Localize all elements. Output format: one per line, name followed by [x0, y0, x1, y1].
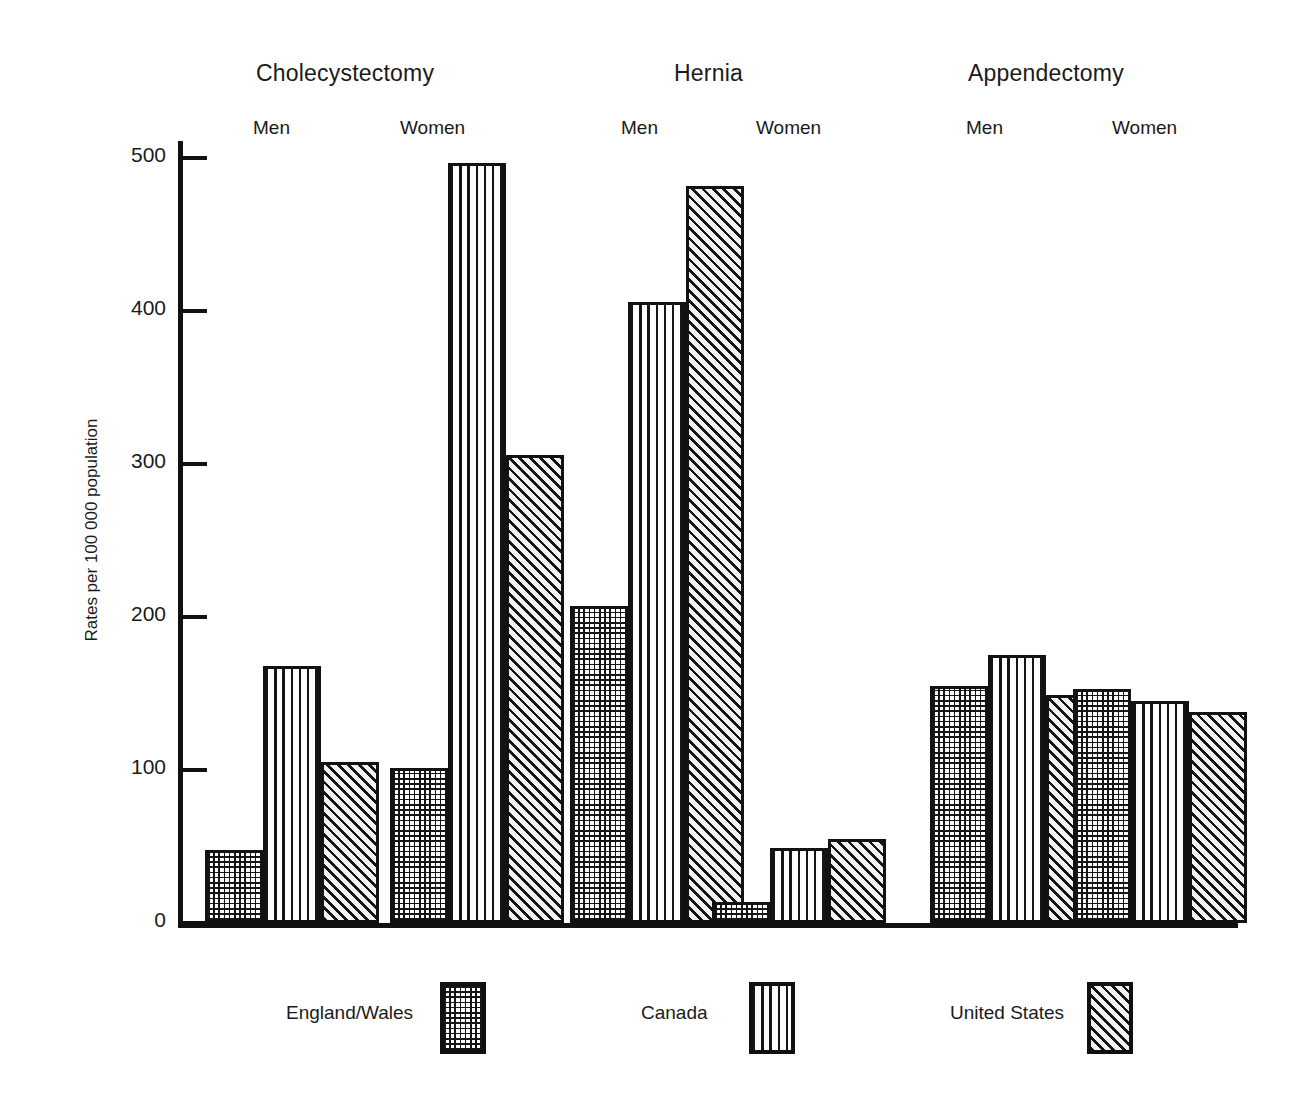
y-tick-100 [183, 768, 207, 772]
sex-label-cholecystectomy-men: Men [253, 117, 290, 139]
sex-label-hernia-men: Men [621, 117, 658, 139]
bar-hernia-women-united-states [828, 839, 886, 923]
y-tick-300 [183, 462, 207, 466]
sex-label-appendectomy-men: Men [966, 117, 1003, 139]
bar-cholecystectomy-women-canada [448, 163, 506, 923]
y-tick-label-500: 500 [86, 143, 166, 167]
sex-label-appendectomy-women: Women [1112, 117, 1177, 139]
legend-label-england-wales: England/Wales [286, 1002, 413, 1024]
legend-label-canada: Canada [641, 1002, 708, 1024]
bar-hernia-men-england-wales [570, 606, 628, 923]
bar-cholecystectomy-men-canada [263, 666, 321, 923]
legend-label-united-states: United States [950, 1002, 1064, 1024]
bar-cholecystectomy-men-united-states [321, 762, 379, 923]
group-title-appendectomy: Appendectomy [968, 60, 1124, 87]
bar-cholecystectomy-women-united-states [506, 455, 564, 923]
y-tick-200 [183, 615, 207, 619]
bar-cholecystectomy-men-england-wales [205, 850, 263, 923]
bar-hernia-women-england-wales [712, 902, 770, 923]
bar-appendectomy-men-canada [988, 655, 1046, 923]
bar-appendectomy-men-england-wales [930, 686, 988, 923]
y-tick-400 [183, 309, 207, 313]
group-title-cholecystectomy: Cholecystectomy [256, 60, 434, 87]
legend-swatch-england-wales [440, 982, 486, 1054]
y-tick-0 [183, 921, 207, 925]
bar-hernia-men-united-states [686, 186, 744, 923]
y-tick-label-100: 100 [86, 755, 166, 779]
bar-appendectomy-women-england-wales [1073, 689, 1131, 923]
bar-hernia-women-canada [770, 848, 828, 923]
bar-appendectomy-women-canada [1131, 701, 1189, 923]
y-tick-label-300: 300 [86, 449, 166, 473]
y-tick-label-200: 200 [86, 602, 166, 626]
bar-chart-figure: Cholecystectomy Hernia Appendectomy Men … [0, 0, 1299, 1115]
group-title-hernia: Hernia [674, 60, 743, 87]
legend: England/Wales Canada United States [0, 960, 1299, 1080]
legend-swatch-united-states [1087, 982, 1133, 1054]
bar-appendectomy-women-united-states [1189, 712, 1247, 923]
y-tick-500 [183, 156, 207, 160]
x-axis-line [178, 923, 1238, 928]
y-axis-line [178, 141, 183, 927]
sex-label-cholecystectomy-women: Women [400, 117, 465, 139]
sex-label-hernia-women: Women [756, 117, 821, 139]
bar-cholecystectomy-women-england-wales [390, 768, 448, 923]
y-tick-label-0: 0 [86, 908, 166, 932]
legend-swatch-canada [749, 982, 795, 1054]
y-tick-label-400: 400 [86, 296, 166, 320]
bar-hernia-men-canada [628, 302, 686, 923]
